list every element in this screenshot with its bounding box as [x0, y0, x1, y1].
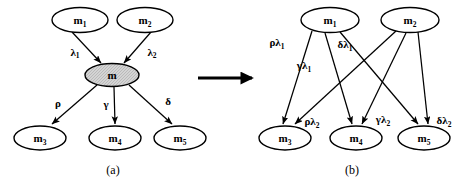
edge-label-delta-lambda-2: δλ2 — [437, 114, 452, 128]
panel-b-edges — [283, 31, 428, 124]
panel-b-nodes: m1 m2 m3 m4 — [259, 8, 450, 151]
node-m3-panel-b[interactable]: m3 — [259, 126, 311, 150]
edge-label-rho: ρ — [55, 97, 61, 109]
edge-label-rho-lambda-2: ρλ2 — [304, 115, 319, 129]
node-m5-panel-b[interactable]: m5 — [398, 126, 450, 150]
node-m3-panel-a[interactable]: m3 — [14, 126, 66, 150]
node-m4-panel-b[interactable]: m4 — [330, 126, 382, 150]
edge-label-lambda-1: λ1 — [70, 46, 79, 60]
graph-transformation-diagram: λ1 λ2 ρ γ δ m1 — [0, 0, 463, 185]
panel-b-edge-labels: ρλ1 γλ1 δλ1 ρλ2 γλ2 δλ2 — [269, 36, 451, 129]
edge-m2-to-m4 — [362, 33, 406, 124]
edge-label-lambda-2: λ2 — [147, 46, 156, 60]
edge-label-gamma: γ — [102, 98, 108, 110]
node-m1-panel-a[interactable]: m1 — [52, 8, 108, 33]
caption-panel-b: (b) — [345, 163, 359, 177]
edge-label-rho-lambda-1: ρλ1 — [269, 36, 284, 50]
panel-a-nodes: m1 m2 m m3 — [14, 8, 206, 151]
caption-panel-a: (a) — [106, 163, 119, 177]
panel-b: ρλ1 γλ1 δλ1 ρλ2 γλ2 δλ2 — [259, 8, 452, 178]
node-label: m — [107, 69, 116, 81]
edge-label-gamma-lambda-2: γλ2 — [375, 113, 391, 127]
node-m2-panel-a[interactable]: m2 — [117, 8, 173, 33]
edge-m-to-m4 — [114, 87, 115, 124]
node-m2-panel-b[interactable]: m2 — [381, 8, 439, 33]
node-m4-panel-a[interactable]: m4 — [89, 126, 141, 150]
edge-label-gamma-lambda-1: γλ1 — [296, 59, 312, 73]
node-m-center-panel-a[interactable]: m — [85, 64, 139, 87]
edge-m2-to-m5 — [418, 32, 428, 124]
node-m1-panel-b[interactable]: m1 — [301, 8, 359, 33]
edge-m1-to-m3 — [283, 31, 312, 124]
panel-a: λ1 λ2 ρ γ δ m1 — [14, 8, 206, 178]
edge-label-delta: δ — [165, 95, 171, 107]
figure-root: λ1 λ2 ρ γ δ m1 — [0, 0, 463, 185]
edge-label-delta-lambda-1: δλ1 — [338, 38, 353, 52]
node-m5-panel-a[interactable]: m5 — [154, 126, 206, 150]
